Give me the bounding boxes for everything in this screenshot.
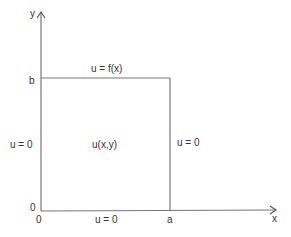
- left-boundary-label: u = 0: [10, 140, 33, 150]
- diagram-canvas: [0, 0, 291, 237]
- tick-origin-x: 0: [36, 215, 42, 225]
- x-axis-label: x: [272, 214, 277, 224]
- tick-b: b: [29, 76, 35, 86]
- y-axis-label: y: [30, 9, 35, 19]
- interior-label: u(x,y): [92, 140, 117, 150]
- top-boundary-label: u = f(x): [91, 64, 122, 74]
- tick-a: a: [167, 215, 173, 225]
- tick-origin-y: 0: [30, 203, 36, 213]
- x-axis: [41, 210, 276, 211]
- right-boundary-label: u = 0: [177, 138, 200, 148]
- bottom-boundary-label: u = 0: [95, 215, 118, 225]
